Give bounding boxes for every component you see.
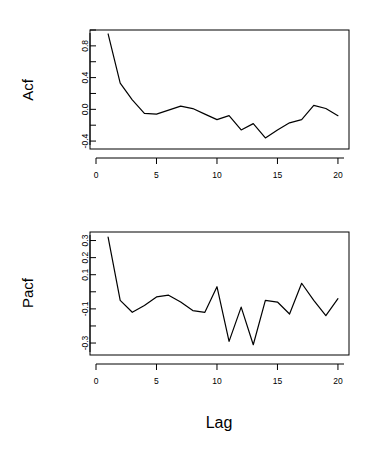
pacf-y-ticks [90, 241, 96, 344]
pacf-x-tick-label: 0 [94, 376, 99, 386]
pacf-y-tick-label: 0.2 [80, 251, 90, 263]
pacf-svg: -0.3-0.10.10.20.3 05101520 Pacf Lag [0, 215, 367, 450]
acf-y-tick-label: 0.8 [80, 40, 90, 52]
pacf-x-tick-label: 15 [273, 376, 283, 386]
acf-x-axis: 05101520 [94, 158, 344, 180]
acf-x-tick-labels: 05101520 [94, 170, 343, 180]
pacf-y-tick-label: -0.1 [80, 301, 90, 316]
pacf-y-axis: -0.3-0.10.10.20.3 [80, 234, 96, 352]
pacf-x-tick-label: 10 [212, 376, 222, 386]
acf-y-tick-label: -0.4 [80, 133, 90, 148]
pacf-data-line [108, 237, 338, 345]
pacf-y-tick-label: 0.1 [80, 269, 90, 281]
pacf-panel: -0.3-0.10.10.20.3 05101520 Pacf Lag [0, 215, 367, 450]
acf-y-axis: -0.40.00.40.8 [80, 30, 96, 148]
acf-plot-frame [90, 30, 349, 149]
acf-x-ticks [96, 158, 338, 164]
acf-x-tick-label: 20 [333, 170, 343, 180]
acf-pacf-figure: -0.40.00.40.8 05101520 Acf -0.3-0.10.10.… [0, 0, 367, 450]
acf-panel: -0.40.00.40.8 05101520 Acf [0, 0, 367, 215]
pacf-x-tick-label: 5 [154, 376, 159, 386]
acf-svg: -0.40.00.40.8 05101520 Acf [0, 0, 367, 215]
pacf-y-axis-title: Pacf [19, 277, 36, 308]
acf-x-tick-label: 0 [94, 170, 99, 180]
lag-x-axis-title: Lag [206, 414, 233, 431]
acf-x-tick-label: 10 [212, 170, 222, 180]
pacf-x-tick-labels: 05101520 [94, 376, 343, 386]
pacf-y-tick-label: 0.3 [80, 234, 90, 246]
acf-y-ticks [90, 30, 96, 141]
acf-x-tick-label: 5 [154, 170, 159, 180]
pacf-x-tick-label: 20 [333, 376, 343, 386]
pacf-y-tick-label: -0.3 [80, 335, 90, 350]
acf-y-tick-label: 0.0 [80, 103, 90, 115]
acf-x-tick-label: 15 [273, 170, 283, 180]
acf-data-line [108, 34, 338, 138]
acf-y-tick-label: 0.4 [80, 71, 90, 83]
acf-y-axis-title: Acf [19, 78, 36, 101]
pacf-plot-frame [90, 232, 349, 355]
pacf-y-tick-labels: -0.3-0.10.10.20.3 [80, 234, 90, 350]
pacf-x-axis: 05101520 [94, 364, 344, 386]
pacf-x-ticks [96, 364, 338, 370]
acf-y-tick-labels: -0.40.00.40.8 [80, 40, 90, 149]
